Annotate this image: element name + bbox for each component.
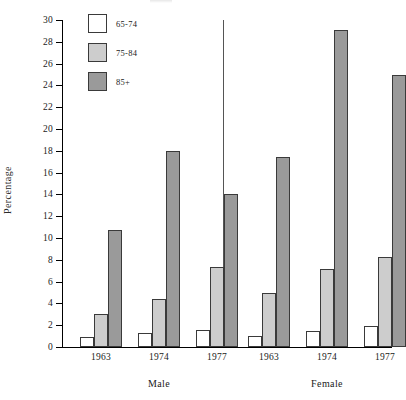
bar [364,326,378,347]
x-tick-label: 1974 [317,352,337,362]
y-tick-mark [56,42,62,43]
bar [210,267,224,347]
bar [334,30,348,347]
y-tick-label: 6 [48,277,53,287]
y-tick-label: 18 [43,146,53,156]
y-tick-mark [56,20,62,21]
y-tick-mark [56,282,62,283]
y-tick-mark [56,85,62,86]
y-tick-mark [56,129,62,130]
y-tick-label: 22 [43,102,53,112]
bar [80,337,94,347]
y-tick-label: 20 [43,124,53,134]
bar [166,151,180,347]
y-tick-mark [56,64,62,65]
y-axis-line [62,20,63,347]
legend-item[interactable]: 85+ [88,72,137,91]
x-axis-line [62,347,392,348]
x-tick-label: 1963 [91,352,111,362]
y-tick-mark [56,325,62,326]
legend-item[interactable]: 75-84 [88,43,137,62]
y-tick-mark [56,303,62,304]
y-tick-label: 28 [43,37,53,47]
legend-label: 65-74 [116,19,137,29]
y-tick-label: 4 [48,298,53,308]
y-tick-mark [56,238,62,239]
legend-swatch-icon [88,72,107,91]
legend-label: 75-84 [116,48,137,58]
x-tick-label: 1963 [259,352,279,362]
y-tick-label: 26 [43,59,53,69]
y-tick-label: 24 [43,80,53,90]
bar [306,331,320,347]
y-tick-label: 0 [48,342,53,352]
bar [108,230,122,347]
bar [196,330,210,347]
panel-label: Female [311,378,343,389]
legend-label: 85+ [116,77,130,87]
bar [378,257,392,347]
y-tick-label: 12 [43,211,53,221]
y-tick-mark [56,194,62,195]
bar [94,314,108,347]
bar [276,157,290,347]
y-tick-label: 16 [43,168,53,178]
y-tick-label: 30 [43,15,53,25]
x-tick-label: 1977 [375,352,395,362]
bar [262,293,276,348]
y-tick-label: 2 [48,320,53,330]
bar [152,299,166,347]
bar [392,75,406,348]
legend-swatch-icon [88,14,107,33]
cropped-title-fragment [150,0,172,3]
y-axis-title: Percentage [2,25,13,135]
y-tick-label: 14 [43,189,53,199]
y-tick-mark [56,173,62,174]
y-tick-label: 8 [48,255,53,265]
y-tick-mark [56,260,62,261]
y-tick-label: 10 [43,233,53,243]
legend-item[interactable]: 65-74 [88,14,137,33]
y-tick-mark [56,151,62,152]
panel-label: Male [148,378,170,389]
y-tick-mark [56,347,62,348]
bar [224,194,238,347]
bar [138,333,152,347]
bar [248,336,262,347]
x-tick-label: 1977 [207,352,227,362]
legend: 65-74 75-84 85+ [88,14,137,101]
x-tick-label: 1974 [149,352,169,362]
y-tick-mark [56,107,62,108]
legend-swatch-icon [88,43,107,62]
y-tick-mark [56,216,62,217]
y-axis-title-text: Percentage [2,135,13,245]
bar [320,269,334,347]
